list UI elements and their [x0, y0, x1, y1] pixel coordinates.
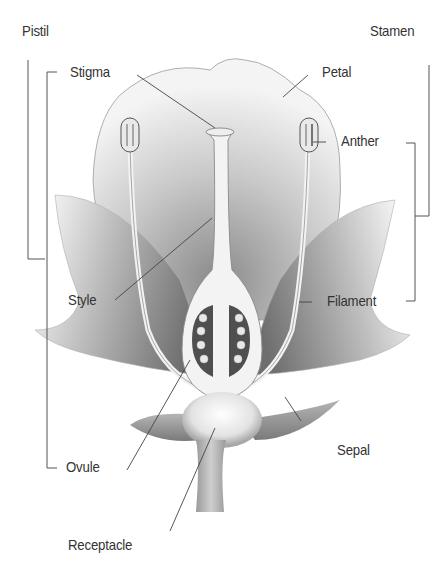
label-anther: Anther — [341, 132, 379, 149]
stem — [196, 440, 226, 512]
label-petal: Petal — [322, 63, 351, 80]
label-style: Style — [68, 291, 96, 308]
label-receptacle: Receptacle — [68, 536, 132, 553]
anther-right — [300, 118, 318, 152]
label-stamen: Stamen — [370, 22, 414, 39]
label-sepal: Sepal — [337, 441, 370, 458]
sepal-right — [250, 400, 340, 440]
label-stigma: Stigma — [70, 63, 110, 80]
label-ovule: Ovule — [66, 458, 100, 475]
flower-illustration — [0, 0, 445, 565]
receptacle — [182, 392, 262, 448]
stamen-bracket-outer — [415, 65, 429, 216]
label-pistil: Pistil — [22, 22, 49, 39]
label-filament: Filament — [327, 292, 376, 309]
flower-diagram: Pistil Stamen Stigma Petal Anther Style … — [0, 0, 445, 565]
anther-left — [121, 118, 139, 152]
stamen-bracket-inner — [406, 143, 415, 301]
pistil-bracket-inner — [47, 72, 57, 468]
stigma — [206, 128, 234, 136]
pistil-bracket-outer — [28, 60, 45, 259]
